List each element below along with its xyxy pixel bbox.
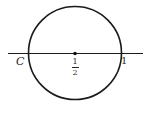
label-one: 1 — [121, 56, 127, 66]
fraction-numerator: 1 — [72, 58, 77, 66]
fraction-denominator: 2 — [72, 69, 77, 77]
center-point — [73, 52, 77, 56]
label-c: C — [16, 56, 24, 67]
diagram-canvas: C 1 2 1 — [0, 0, 147, 117]
label-one-half: 1 2 — [69, 58, 81, 77]
